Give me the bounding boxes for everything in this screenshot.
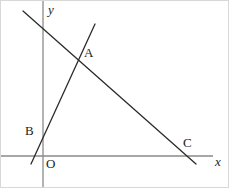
point-label-a: A	[84, 46, 93, 59]
point-label-c: C	[183, 136, 192, 149]
coordinate-geometry-figure: A B C O x y	[0, 0, 229, 188]
origin-label: O	[46, 157, 55, 170]
y-axis-label: y	[48, 3, 54, 16]
x-axis-label: x	[215, 155, 221, 168]
line-ac	[23, 11, 196, 164]
diagram-canvas	[1, 1, 229, 188]
point-label-b: B	[25, 124, 34, 137]
